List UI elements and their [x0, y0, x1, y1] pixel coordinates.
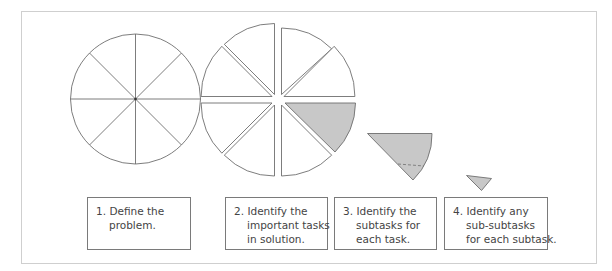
- step-number: 1.: [96, 205, 106, 217]
- step-text: for each subtask.: [453, 232, 541, 246]
- whole-problem-circle: [71, 34, 201, 164]
- step-4-box: 4. Identify any sub-subtasks for each su…: [444, 197, 548, 250]
- step-number: 2.: [234, 205, 244, 217]
- step-3-box: 3. Identify the subtasks for each task.: [334, 197, 437, 250]
- step-1-box: 1. Define the problem.: [87, 197, 191, 250]
- step-text: subtasks for: [343, 218, 430, 232]
- exploded-task-circle: [201, 24, 355, 177]
- step-text: Identify any: [466, 205, 528, 217]
- step-text: in solution.: [234, 232, 321, 246]
- step-text: each task.: [343, 232, 430, 246]
- step-text: Identify the: [247, 205, 307, 217]
- subtask-wedge: [368, 134, 433, 181]
- step-text: Identify the: [356, 205, 416, 217]
- sub-subtask-wedge: [467, 176, 492, 191]
- step-text: problem.: [96, 218, 184, 232]
- step-text: important tasks: [234, 218, 321, 232]
- step-number: 4.: [453, 205, 463, 217]
- step-number: 3.: [343, 205, 353, 217]
- step-text: Define the: [109, 205, 164, 217]
- step-text: sub-subtasks: [453, 218, 541, 232]
- step-2-box: 2. Identify the important tasks in solut…: [225, 197, 328, 250]
